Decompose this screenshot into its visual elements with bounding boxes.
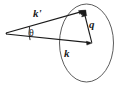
k-label: k: [64, 48, 70, 59]
apex-vertex: [6, 33, 7, 34]
theta-label: θ: [29, 28, 34, 38]
diagram-canvas: [0, 0, 122, 92]
q-label: q: [89, 19, 95, 30]
scattering-vector-diagram: k' q k θ: [0, 0, 122, 92]
k-prime-label: k': [33, 8, 42, 19]
k-vector: [6, 34, 92, 45]
right-angle-marker: [80, 10, 86, 15]
k-prime-vector: [6, 10, 85, 33]
